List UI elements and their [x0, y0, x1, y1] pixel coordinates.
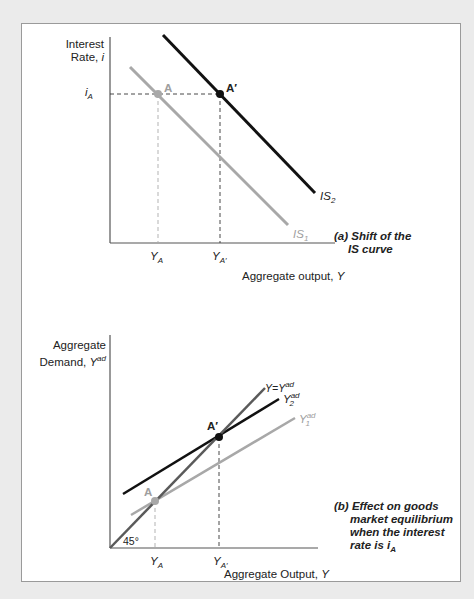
yad2-curve: [123, 399, 279, 494]
label-is2: IS2: [320, 190, 335, 207]
label-point-a-b: A: [144, 486, 152, 499]
point-a-marker: [154, 90, 162, 98]
label-point-a: A: [164, 82, 172, 95]
is1-curve: [130, 67, 288, 225]
label-yad2: Yad2: [283, 389, 294, 410]
panel-a-y-axis-label: Interest Rate, i: [40, 38, 104, 64]
panel-b-x-axis-label: Aggregate Output, Y: [224, 568, 329, 581]
point-a-prime-marker-b: [215, 433, 223, 441]
tick-ya-prime: YA′: [212, 250, 227, 267]
panel-a-graph: [110, 35, 335, 243]
is2-curve: [163, 35, 315, 193]
forty-five-degree-line: [110, 388, 265, 548]
tick-ya-b: YA: [150, 555, 163, 572]
tick-ia: iA: [85, 86, 93, 103]
panel-a-x-axis-label: Aggregate output, Y: [242, 270, 344, 283]
label-45-degree: 45°: [123, 535, 139, 548]
label-yad1: Yad1: [299, 409, 310, 430]
point-a-prime-marker: [216, 90, 224, 98]
panel-a-caption: (a) Shift of the IS curve: [334, 230, 411, 256]
label-is1: IS1: [293, 228, 308, 245]
panel-b-y-axis-label: Aggregate Demand, Yad: [30, 339, 106, 369]
panel-b-graph: [110, 335, 318, 548]
label-point-a-prime: A′: [226, 82, 237, 95]
label-point-a-prime-b: A′: [207, 420, 218, 433]
panel-b-caption: (b) Effect on goods market equilibrium w…: [334, 500, 453, 556]
tick-ya: YA: [150, 250, 163, 267]
